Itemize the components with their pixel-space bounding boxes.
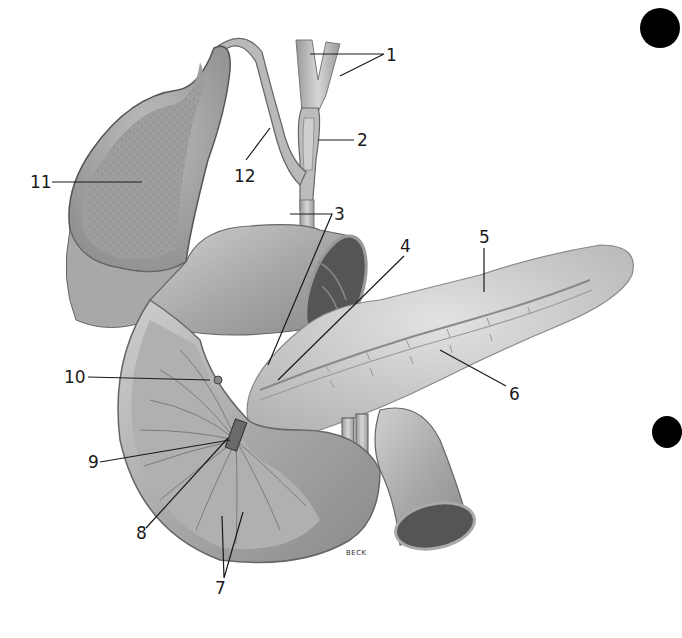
label-1-hepatic-ducts: 1 [386,47,397,64]
cystic-duct [218,38,306,185]
label-12-cystic-duct: 12 [234,168,256,185]
label-6-pancreatic-duct: 6 [509,386,520,403]
artist-signature: BECK [346,549,367,557]
label-9-papilla: 9 [88,454,99,471]
jejunum [375,408,479,556]
label-2-bile-duct: 2 [357,132,368,149]
hepatic-ducts [296,40,340,112]
label-5-pancreas: 5 [479,229,490,246]
label-3-common-bile-duct: 3 [334,206,345,223]
label-11-gallbladder: 11 [30,174,52,191]
punch-hole-top [640,8,680,48]
label-8-ampulla: 8 [136,525,147,542]
punch-hole-middle [652,416,682,448]
label-4-accessory-duct: 4 [400,238,411,255]
label-7-duodenal-folds: 7 [215,580,226,597]
label-10-minor-papilla: 10 [64,369,86,386]
